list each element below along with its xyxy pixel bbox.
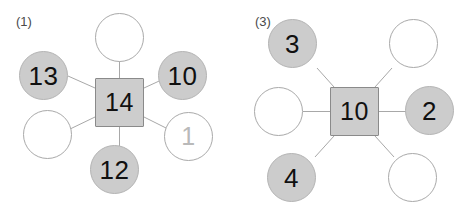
- spoke-node-top-right[interactable]: 10: [158, 51, 207, 100]
- spoke-node-value: 13: [29, 63, 59, 89]
- spoke-line-top-right: [375, 68, 392, 87]
- spoke-node-right[interactable]: 2: [405, 86, 454, 135]
- spoke-node-value: 10: [168, 63, 198, 89]
- center-node-value: 14: [105, 90, 134, 115]
- spoke-node-value: 3: [285, 31, 300, 57]
- spoke-node-value: 12: [100, 157, 130, 183]
- spoke-node-top-right[interactable]: [389, 19, 438, 68]
- spoke-node-top-left[interactable]: 13: [19, 51, 68, 100]
- spoke-node-left[interactable]: [254, 87, 303, 136]
- problem-panel-2: (3) 10 3 2: [235, 0, 471, 213]
- spoke-node-bottom-right[interactable]: [388, 153, 437, 202]
- spoke-node-value: 4: [284, 165, 299, 191]
- spoke-node-value: 2: [422, 98, 437, 124]
- spoke-node-bottom-left[interactable]: 4: [267, 153, 316, 202]
- center-node-value: 10: [340, 99, 369, 124]
- spoke-line-bottom-left: [315, 136, 334, 157]
- problem-panel-1: (1) 14 13 10: [0, 0, 235, 213]
- worksheet: (1) 14 13 10: [0, 0, 471, 213]
- spoke-node-left[interactable]: [23, 110, 72, 159]
- spoke-node-bottom[interactable]: 12: [90, 145, 139, 194]
- spoke-node-value: 1: [181, 124, 195, 149]
- spoke-node-top-left[interactable]: 3: [268, 19, 317, 68]
- spoke-line-bottom-right: [375, 136, 394, 157]
- spoke-line-top-left: [68, 76, 95, 88]
- center-node-2[interactable]: 10: [330, 87, 379, 136]
- spoke-node-top[interactable]: [95, 13, 144, 62]
- spoke-node-right[interactable]: 1: [164, 112, 213, 161]
- center-node-1[interactable]: 14: [95, 78, 144, 127]
- spoke-line-top-left: [317, 68, 334, 87]
- spoke-line-left: [68, 117, 95, 130]
